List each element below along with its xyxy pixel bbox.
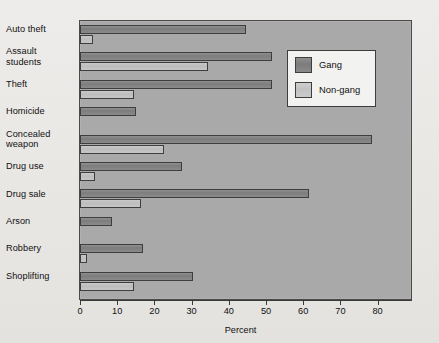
- category-label-line: Arson: [6, 216, 74, 227]
- category-label-line: Shoplifting: [6, 271, 74, 282]
- category-label-3: Homicide: [6, 106, 74, 117]
- x-tick-label-20: 20: [139, 306, 169, 316]
- category-label-line: Theft: [6, 79, 74, 90]
- legend-swatch-nongang: [295, 82, 312, 98]
- legend-label-gang: Gang: [319, 59, 342, 70]
- category-label-9: Shoplifting: [6, 271, 74, 282]
- bar-nongang-9: [80, 282, 134, 291]
- x-tick-label-0: 0: [65, 306, 95, 316]
- category-axis-labels: Auto theftAssaultstudentsTheftHomicideCo…: [6, 20, 77, 300]
- x-tick-30: [192, 300, 193, 305]
- bar-nongang-2: [80, 90, 134, 99]
- x-tick-60: [303, 300, 304, 305]
- bar-gang-3: [80, 107, 136, 116]
- bar-nongang-6: [80, 199, 141, 208]
- category-label-line: Auto theft: [6, 24, 74, 35]
- legend-label-nongang: Non-gang: [319, 84, 360, 95]
- bar-gang-6: [80, 189, 309, 198]
- category-label-1: Assaultstudents: [6, 46, 74, 67]
- x-tick-70: [340, 300, 341, 305]
- x-axis-line: [80, 300, 412, 301]
- bar-gang-1: [80, 52, 272, 61]
- bar-nongang-4: [80, 145, 164, 154]
- x-tick-20: [154, 300, 155, 305]
- bar-chart-figure: Auto theftAssaultstudentsTheftHomicideCo…: [0, 0, 439, 343]
- x-tick-label-80: 80: [363, 306, 393, 316]
- x-tick-0: [80, 300, 81, 305]
- bar-gang-0: [80, 25, 246, 34]
- x-tick-label-70: 70: [325, 306, 355, 316]
- bar-nongang-1: [80, 62, 208, 71]
- category-label-line: Drug sale: [6, 189, 74, 200]
- x-tick-label-10: 10: [102, 306, 132, 316]
- category-label-5: Drug use: [6, 161, 74, 172]
- bar-gang-9: [80, 272, 193, 281]
- category-label-4: Concealedweapon: [6, 129, 74, 150]
- category-label-7: Arson: [6, 216, 74, 227]
- bar-gang-2: [80, 80, 272, 89]
- category-label-line: Drug use: [6, 161, 74, 172]
- x-tick-label-50: 50: [251, 306, 281, 316]
- category-label-line: Assault: [6, 46, 74, 57]
- bar-gang-8: [80, 244, 143, 253]
- bar-gang-4: [80, 135, 372, 144]
- x-axis: 01020304050607080: [80, 300, 412, 308]
- page-background: Auto theftAssaultstudentsTheftHomicideCo…: [0, 0, 439, 343]
- legend-swatch-gang: [295, 57, 312, 73]
- bar-nongang-0: [80, 35, 93, 44]
- category-label-line: Concealed: [6, 129, 74, 140]
- x-tick-label-30: 30: [177, 306, 207, 316]
- category-label-6: Drug sale: [6, 189, 74, 200]
- x-tick-label-40: 40: [214, 306, 244, 316]
- bar-nongang-8: [80, 254, 87, 263]
- x-tick-label-60: 60: [288, 306, 318, 316]
- chart-legend: GangNon-gang: [287, 50, 376, 107]
- category-label-2: Theft: [6, 79, 74, 90]
- bar-gang-5: [80, 162, 182, 171]
- x-axis-title: Percent: [0, 325, 439, 335]
- bar-gang-7: [80, 217, 112, 226]
- x-tick-80: [378, 300, 379, 305]
- x-axis-title-text: Percent: [225, 325, 257, 335]
- category-label-line: weapon: [6, 139, 74, 150]
- x-tick-40: [229, 300, 230, 305]
- category-label-0: Auto theft: [6, 24, 74, 35]
- x-tick-50: [266, 300, 267, 305]
- category-label-line: Robbery: [6, 243, 74, 254]
- x-tick-10: [117, 300, 118, 305]
- category-label-line: students: [6, 57, 74, 68]
- bar-nongang-5: [80, 172, 95, 181]
- category-label-8: Robbery: [6, 243, 74, 254]
- category-label-line: Homicide: [6, 106, 74, 117]
